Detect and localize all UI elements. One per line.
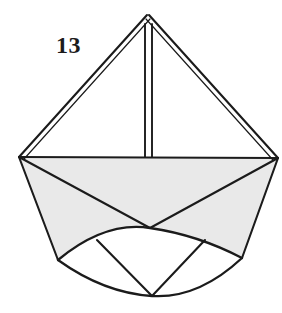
figure-container: 13: [0, 0, 282, 313]
geometric-figure: [0, 0, 282, 313]
edge-waist: [19, 157, 278, 158]
figure-label: 13: [56, 33, 81, 57]
